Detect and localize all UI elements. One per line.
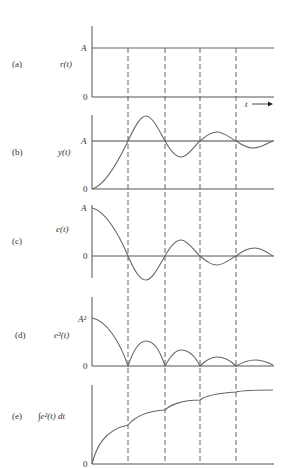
panel-d-ytick-top: A² — [77, 314, 86, 324]
panel-a: (a) r(t) A 0 t — [12, 26, 274, 109]
panel-b-response-curve — [92, 116, 273, 189]
panel-a-signal-label: r(t) — [60, 59, 72, 69]
time-arrow-icon — [252, 102, 273, 107]
panel-e-signal-label: ∫e²(t) dt — [37, 411, 65, 422]
panel-c-tag: (c) — [12, 236, 22, 246]
panel-c: (c) e(t) A 0 — [12, 203, 274, 280]
figure-canvas: (a) r(t) A 0 t (b) y(t) A 0 (c) e(t) A 0 — [0, 0, 290, 468]
panel-a-tag: (a) — [12, 59, 22, 69]
panel-e-integral-curve — [92, 390, 273, 464]
panel-a-ytick-top: A — [80, 43, 87, 53]
panel-e-tag: (e) — [12, 411, 22, 421]
panel-d-tag: (d) — [15, 330, 26, 340]
panel-e-ytick-zero: 0 — [83, 459, 88, 468]
panel-b-tag: (b) — [12, 147, 23, 157]
panel-a-ytick-zero: 0 — [83, 92, 88, 102]
panel-c-ytick-top: A — [80, 203, 87, 213]
panel-d-ytick-zero: 0 — [83, 361, 88, 371]
panel-c-signal-label: e(t) — [56, 224, 69, 234]
panel-b-signal-label: y(t) — [57, 147, 71, 157]
time-axis-label: t — [245, 99, 248, 109]
panel-b-ytick-zero: 0 — [83, 184, 88, 194]
panel-d: (d) e²(t) A² 0 — [15, 297, 274, 371]
panel-e: (e) ∫e²(t) dt 0 — [12, 385, 274, 468]
panel-d-squared-error-curve — [92, 318, 273, 366]
panel-b-ytick-top: A — [80, 136, 87, 146]
panel-c-ytick-zero: 0 — [83, 251, 88, 261]
panel-b: (b) y(t) A 0 — [12, 115, 274, 194]
panel-c-error-curve — [92, 208, 273, 280]
panel-d-signal-label: e²(t) — [54, 330, 69, 340]
